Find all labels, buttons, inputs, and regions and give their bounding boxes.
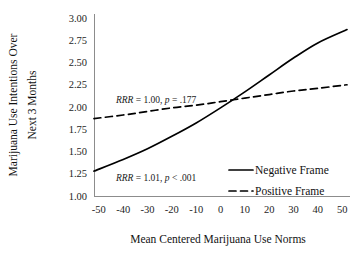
x-tick-label: -10 — [189, 204, 203, 215]
chart-background — [0, 0, 362, 259]
y-tick-label: 1.50 — [69, 146, 87, 157]
x-tick-label: 50 — [337, 204, 348, 215]
y-tick-label: 1.75 — [69, 124, 87, 135]
x-tick-label: -20 — [165, 204, 179, 215]
legend-label-negative-frame: Negative Frame — [255, 164, 329, 177]
x-tick-label: 10 — [240, 204, 251, 215]
y-tick-label: 2.25 — [69, 79, 87, 90]
y-tick-label: 1.25 — [69, 168, 87, 179]
y-tick-label: 2.50 — [69, 57, 87, 68]
x-tick-label: 30 — [288, 204, 299, 215]
y-tick-label: 2.75 — [69, 35, 87, 46]
y-tick-label: 3.00 — [69, 13, 87, 24]
x-tick-label: 40 — [313, 204, 324, 215]
chart-figure: 1.001.251.501.752.002.252.502.753.00 -50… — [0, 0, 362, 259]
annotation-positive-frame-stat: RRR = 1.00, p = .177 — [115, 95, 197, 105]
x-tick-label: 0 — [218, 204, 223, 215]
y-axis-title-line-1: Marijuana Use Intentions Over — [7, 33, 20, 176]
x-tick-label: 20 — [264, 204, 275, 215]
legend-label-positive-frame: Positive Frame — [255, 185, 324, 197]
x-tick-label: -40 — [116, 204, 130, 215]
y-axis-title-line-2: Next 3 Months — [26, 70, 38, 140]
y-tick-label: 2.00 — [69, 102, 87, 113]
x-axis-title: Mean Centered Marijuana Use Norms — [130, 233, 306, 246]
y-axis-tick-labels: 1.001.251.501.752.002.252.502.753.00 — [69, 13, 87, 202]
annotation-negative-frame-stat: RRR = 1.01, p < .001 — [115, 173, 197, 183]
y-tick-label: 1.00 — [69, 191, 87, 202]
x-tick-label: -50 — [92, 204, 106, 215]
x-tick-label: -30 — [141, 204, 155, 215]
line-chart: 1.001.251.501.752.002.252.502.753.00 -50… — [0, 0, 362, 259]
